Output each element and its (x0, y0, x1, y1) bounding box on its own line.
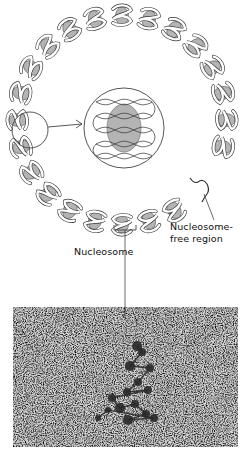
nucleosome-free-region-label: Nucleosome- free region (170, 221, 233, 245)
nfr-leader-line (204, 194, 214, 220)
figure: Nucleosome- free region Nucleosome (0, 0, 248, 462)
nucleosome-label: Nucleosome (74, 246, 134, 258)
nucleosome-bracket (114, 225, 136, 318)
label-line-2: free region (170, 233, 233, 245)
magnified-nucleosome-inset (84, 88, 164, 168)
label-line-1: Nucleosome- (170, 221, 233, 233)
electron-micrograph (13, 307, 238, 447)
arrow-icon (48, 120, 82, 128)
